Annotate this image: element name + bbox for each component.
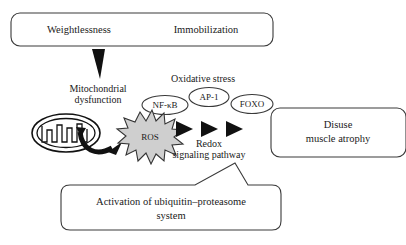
outcome-line1: Disuse	[324, 119, 353, 130]
ros-label: ROS	[141, 132, 159, 142]
diagram-canvas: Weightlessness Immobilization Mitochondr…	[0, 0, 406, 245]
pathway-diagram: Weightlessness Immobilization Mitochondr…	[0, 0, 406, 245]
redox-pathway-line1: Redox	[196, 138, 222, 149]
transcription-factor-nfkb-label: NF-κB	[152, 100, 177, 110]
transcription-factor-ap1-label: AP-1	[199, 92, 218, 102]
outcome-line2: muscle atrophy	[306, 133, 371, 144]
wedge-arrow-down-icon	[92, 49, 105, 79]
mitochondrial-dysfunction-line2: dysfunction	[74, 94, 121, 105]
pathway-arrow-3-icon	[226, 121, 243, 137]
redox-pathway-line2: signaling pathway	[172, 149, 245, 160]
ubiquitin-box-line2: system	[156, 210, 185, 221]
mitochondrial-dysfunction-line1: Mitochondrial	[69, 83, 126, 94]
transcription-factor-foxo-label: FOXO	[240, 99, 265, 109]
pathway-arrow-1-icon	[176, 121, 193, 137]
stimulus-immobilization-label: Immobilization	[174, 24, 239, 35]
mitochondrion-icon	[32, 114, 100, 152]
pathway-arrow-2-icon	[201, 121, 218, 137]
ubiquitin-box-line1: Activation of ubiquitin–proteasome	[96, 196, 246, 207]
oxidative-stress-label: Oxidative stress	[171, 73, 235, 84]
stimulus-weightlessness-label: Weightlessness	[47, 24, 111, 35]
